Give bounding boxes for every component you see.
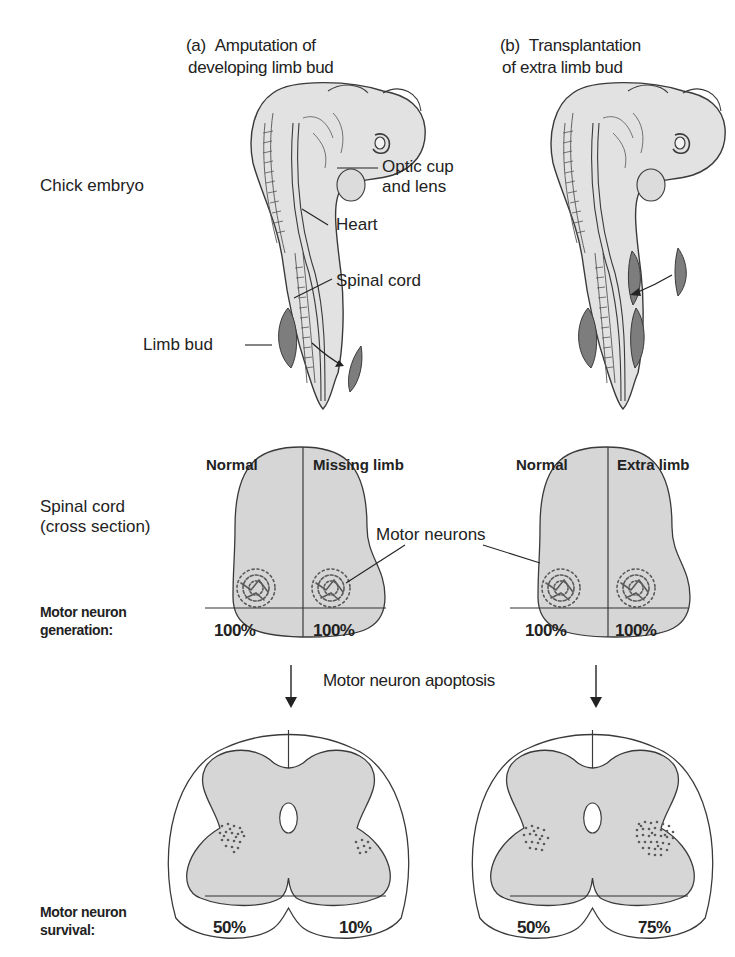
row-label-spinal-cord-line1: Spinal cord bbox=[40, 497, 125, 517]
cs-a-missing-limb-label: Missing limb bbox=[313, 456, 404, 473]
panel-a-title-line1: (a) Amputation of bbox=[186, 36, 316, 56]
generation-b-normal: 100% bbox=[525, 621, 566, 641]
generation-a-missing: 100% bbox=[313, 621, 354, 641]
panel-a-letter: (a) bbox=[186, 36, 206, 55]
row-label-generation-line2: generation: bbox=[40, 621, 113, 639]
panel-a-title-line2: developing limb bud bbox=[188, 58, 334, 78]
panel-a-title-text: Amputation of bbox=[215, 36, 316, 55]
survival-b-normal: 50% bbox=[517, 918, 550, 938]
cs-a-normal-label: Normal bbox=[206, 456, 258, 473]
label-spinal-cord: Spinal cord bbox=[336, 271, 421, 291]
survival-b-extra: 75% bbox=[638, 918, 671, 938]
row-label-spinal-cord-line2: (cross section) bbox=[40, 517, 151, 537]
label-heart: Heart bbox=[336, 215, 378, 235]
label-motor-neurons: Motor neurons bbox=[376, 525, 486, 545]
cross-section-late-b bbox=[472, 730, 712, 938]
survival-a-normal: 50% bbox=[213, 918, 246, 938]
diagram-graphics bbox=[0, 0, 735, 957]
survival-a-missing: 10% bbox=[339, 918, 372, 938]
label-optic-cup-line2: and lens bbox=[382, 177, 446, 197]
row-label-chick-embryo: Chick embryo bbox=[40, 176, 144, 196]
generation-b-extra: 100% bbox=[615, 621, 656, 641]
generation-a-normal: 100% bbox=[214, 621, 255, 641]
cs-b-normal-label: Normal bbox=[516, 456, 568, 473]
label-optic-cup-line1: Optic cup bbox=[382, 157, 454, 177]
cross-section-late-a bbox=[168, 730, 408, 938]
label-limb-bud: Limb bud bbox=[143, 335, 213, 355]
panel-b-letter: (b) bbox=[500, 36, 520, 55]
row-label-survival-line2: survival: bbox=[40, 921, 95, 939]
panel-b-title-text: Transplantation bbox=[529, 36, 641, 55]
embryo-a bbox=[251, 83, 425, 409]
panel-b-title-line2: of extra limb bud bbox=[502, 58, 623, 78]
panel-b-title-line1: (b) Transplantation bbox=[500, 36, 641, 56]
label-apoptosis: Motor neuron apoptosis bbox=[323, 671, 495, 691]
cs-b-extra-limb-label: Extra limb bbox=[617, 456, 690, 473]
embryo-b bbox=[551, 83, 725, 409]
row-label-survival-line1: Motor neuron bbox=[40, 903, 127, 921]
row-label-generation-line1: Motor neuron bbox=[40, 603, 127, 621]
